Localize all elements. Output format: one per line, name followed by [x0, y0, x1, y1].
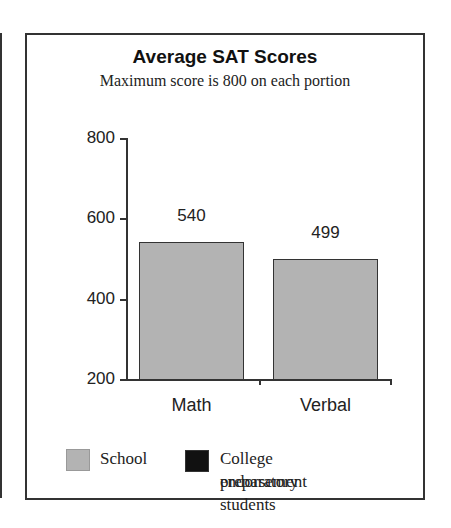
data-label-math: 540	[139, 206, 244, 226]
legend-label-school: School	[100, 447, 147, 470]
chart-panel: Average SAT Scores Maximum score is 800 …	[25, 33, 425, 500]
y-tick-label: 400	[55, 289, 115, 309]
y-tick-label: 600	[55, 208, 115, 228]
plot-area: 200400600800540Math499Verbal	[27, 35, 423, 498]
x-category-label-verbal: Verbal	[273, 395, 378, 416]
y-tick-label: 200	[55, 369, 115, 389]
x-tick	[259, 379, 261, 385]
y-axis-line	[126, 138, 128, 380]
data-label-verbal: 499	[273, 223, 378, 243]
legend-swatch-school	[66, 449, 90, 471]
x-tick	[390, 379, 392, 385]
y-tick	[120, 138, 127, 140]
legend-label-college-line2: endorsement students	[220, 470, 307, 516]
y-tick	[120, 299, 127, 301]
adjacent-panel-border	[0, 33, 2, 498]
y-tick	[120, 218, 127, 220]
bar-math	[139, 242, 244, 380]
x-category-label-math: Math	[139, 395, 244, 416]
y-tick	[120, 379, 127, 381]
bar-verbal	[273, 259, 378, 380]
y-tick-label: 800	[55, 128, 115, 148]
legend-swatch-college	[185, 450, 209, 472]
